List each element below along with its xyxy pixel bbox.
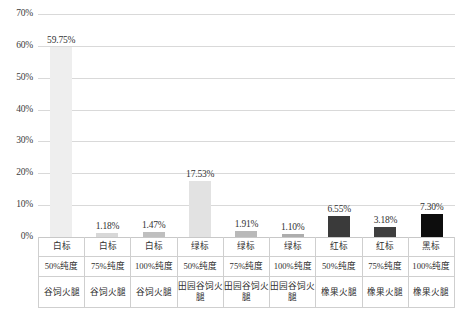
bar-value-label: 59.75% — [47, 35, 75, 45]
bar-value-label: 1.10% — [281, 222, 305, 232]
x-axis-cell: 75%纯度 — [223, 257, 269, 277]
x-axis-cell: 白标 — [131, 237, 177, 257]
bars-layer: 59.75%1.18%1.47%17.53%1.91%1.10%6.55%3.1… — [38, 14, 455, 237]
bar — [421, 214, 443, 237]
bar-group: 59.75% — [38, 14, 84, 237]
x-axis-cell: 白标 — [85, 237, 131, 257]
x-axis-cell: 绿标 — [270, 237, 316, 257]
bar-group: 1.18% — [84, 14, 130, 237]
bar-value-label: 7.30% — [420, 202, 444, 212]
x-axis-cell: 田园谷饲火腿 — [223, 277, 269, 308]
x-axis-cell: 谷饲火腿 — [85, 277, 131, 308]
bar-group: 1.47% — [131, 14, 177, 237]
x-axis-cell: 100%纯度 — [270, 257, 316, 277]
y-tick-label: 30% — [0, 135, 33, 145]
x-axis-cell: 50%纯度 — [316, 257, 362, 277]
y-tick-label: 60% — [0, 40, 33, 50]
y-tick-label: 20% — [0, 167, 33, 177]
bar-chart: 70%60%50%40%30%20%10%0% 59.75%1.18%1.47%… — [0, 0, 464, 325]
x-axis-cell: 75%纯度 — [85, 257, 131, 277]
x-axis-cell: 红标 — [316, 237, 362, 257]
bar-group: 17.53% — [177, 14, 223, 237]
x-axis-row-purity: 50%纯度75%纯度100%纯度50%纯度75%纯度100%纯度50%纯度75%… — [39, 257, 455, 277]
y-tick-label: 40% — [0, 104, 33, 114]
bar — [189, 181, 211, 237]
x-axis-cell: 75%纯度 — [362, 257, 408, 277]
x-axis-cell: 绿标 — [177, 237, 223, 257]
x-axis-cell: 红标 — [362, 237, 408, 257]
x-axis-cell: 绿标 — [223, 237, 269, 257]
bar-value-label: 1.91% — [235, 219, 259, 229]
x-axis-row-grade: 白标白标白标绿标绿标绿标红标红标黑标 — [39, 237, 455, 257]
x-axis-cell: 100%纯度 — [131, 257, 177, 277]
x-axis-cell: 谷饲火腿 — [39, 277, 85, 308]
x-axis-cell: 田园谷饲火腿 — [177, 277, 223, 308]
bar-value-label: 1.18% — [96, 221, 120, 231]
x-axis-cell: 谷饲火腿 — [131, 277, 177, 308]
bar-value-label: 3.18% — [374, 215, 398, 225]
bar-value-label: 17.53% — [186, 169, 214, 179]
bar-group: 1.91% — [223, 14, 269, 237]
x-axis-cell: 黑标 — [408, 237, 454, 257]
y-tick-label: 70% — [0, 8, 33, 18]
y-tick-label: 50% — [0, 72, 33, 82]
x-axis-cell: 田园谷饲火腿 — [270, 277, 316, 308]
bar — [328, 216, 350, 237]
y-tick-label: 0% — [0, 231, 33, 241]
x-axis-cell: 50%纯度 — [177, 257, 223, 277]
x-axis-cell: 橡果火腿 — [408, 277, 454, 308]
bar-value-label: 1.47% — [142, 220, 166, 230]
x-axis-cell: 100%纯度 — [408, 257, 454, 277]
x-axis-row-product: 谷饲火腿谷饲火腿谷饲火腿田园谷饲火腿田园谷饲火腿田园谷饲火腿橡果火腿橡果火腿橡果… — [39, 277, 455, 308]
x-axis-cell: 白标 — [39, 237, 85, 257]
bar — [374, 227, 396, 237]
x-axis-cell: 橡果火腿 — [316, 277, 362, 308]
bar-group: 1.10% — [270, 14, 316, 237]
x-axis-category-table: 白标白标白标绿标绿标绿标红标红标黑标50%纯度75%纯度100%纯度50%纯度7… — [38, 237, 455, 308]
bar — [50, 47, 72, 237]
y-tick-label: 10% — [0, 199, 33, 209]
bar-group: 6.55% — [316, 14, 362, 237]
x-axis-cell: 橡果火腿 — [362, 277, 408, 308]
x-axis-cell: 50%纯度 — [39, 257, 85, 277]
bar-group: 7.30% — [409, 14, 455, 237]
bar-value-label: 6.55% — [327, 204, 351, 214]
bar-group: 3.18% — [362, 14, 408, 237]
